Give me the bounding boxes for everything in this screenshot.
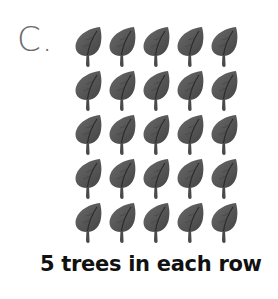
tree-array — [73, 26, 243, 246]
tree-item — [175, 202, 205, 246]
tree-leaf-icon — [141, 202, 171, 245]
tree-leaf-icon — [73, 26, 103, 69]
tree-leaf-icon — [175, 26, 205, 69]
tree-leaf-icon — [73, 158, 103, 201]
tree-item — [107, 202, 137, 246]
tree-leaf-icon — [209, 158, 239, 201]
tree-leaf-icon — [209, 26, 239, 69]
tree-item — [107, 158, 137, 202]
tree-leaf-icon — [141, 158, 171, 201]
tree-item — [175, 70, 205, 114]
tree-leaf-icon — [141, 70, 171, 113]
tree-item — [209, 26, 239, 70]
tree-item — [141, 114, 171, 158]
tree-leaf-icon — [141, 26, 171, 69]
tree-leaf-icon — [175, 114, 205, 157]
tree-leaf-icon — [175, 202, 205, 245]
tree-item — [209, 202, 239, 246]
tree-item — [175, 114, 205, 158]
tree-item — [73, 70, 103, 114]
tree-item — [73, 114, 103, 158]
tree-leaf-icon — [107, 202, 137, 245]
tree-leaf-icon — [175, 158, 205, 201]
tree-leaf-icon — [107, 26, 137, 69]
tree-item — [141, 202, 171, 246]
tree-item — [73, 202, 103, 246]
tree-leaf-icon — [107, 70, 137, 113]
tree-leaf-icon — [209, 202, 239, 245]
tree-leaf-icon — [73, 114, 103, 157]
tree-leaf-icon — [73, 202, 103, 245]
tree-leaf-icon — [107, 114, 137, 157]
tree-leaf-icon — [175, 70, 205, 113]
tree-leaf-icon — [209, 70, 239, 113]
tree-leaf-icon — [73, 70, 103, 113]
tree-item — [141, 158, 171, 202]
tree-item — [175, 158, 205, 202]
tree-leaf-icon — [141, 114, 171, 157]
problem-label: C. — [17, 22, 54, 56]
tree-item — [107, 70, 137, 114]
tree-item — [107, 26, 137, 70]
tree-item — [209, 114, 239, 158]
tree-item — [209, 158, 239, 202]
tree-item — [141, 70, 171, 114]
tree-leaf-icon — [209, 114, 239, 157]
tree-item — [175, 26, 205, 70]
tree-item — [209, 70, 239, 114]
tree-item — [73, 26, 103, 70]
array-caption: 5 trees in each row — [40, 252, 262, 276]
tree-item — [107, 114, 137, 158]
tree-item — [141, 26, 171, 70]
tree-item — [73, 158, 103, 202]
tree-leaf-icon — [107, 158, 137, 201]
